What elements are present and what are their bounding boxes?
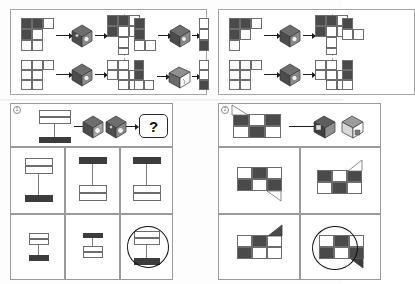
net-cell <box>252 247 267 259</box>
net-bar <box>83 252 103 258</box>
option-shape-1e <box>83 233 103 260</box>
net-cell <box>229 29 240 40</box>
net-cell <box>317 182 332 194</box>
net-cell <box>240 18 251 29</box>
net-bar <box>39 117 71 124</box>
net-cell <box>229 70 240 80</box>
option-cell-1d[interactable] <box>10 214 65 280</box>
option-shape-1d <box>29 233 49 261</box>
net-cell <box>267 247 282 259</box>
net-before-6 <box>229 60 262 90</box>
net-cell <box>118 80 129 90</box>
panel-label-2: 2 <box>221 106 229 114</box>
net-before-1 <box>21 18 54 51</box>
net-cell <box>347 182 362 194</box>
net-cell <box>326 60 337 70</box>
net-cell <box>240 29 251 40</box>
net-cell <box>342 18 353 29</box>
net-cell <box>21 70 32 80</box>
net-cell <box>107 26 118 37</box>
net-cell <box>134 40 145 51</box>
net-cell <box>107 60 118 70</box>
net-cell <box>353 29 364 40</box>
option-shape-2b <box>317 170 362 194</box>
net-cell <box>265 114 281 126</box>
net-flap-triangle <box>266 190 282 202</box>
net-cell <box>43 60 54 70</box>
net-cell <box>229 40 240 51</box>
option-cell-1b[interactable] <box>65 147 120 214</box>
net-stem <box>38 245 39 255</box>
net-cell <box>317 170 332 182</box>
net-cell <box>118 15 129 26</box>
net-cell <box>32 70 43 80</box>
net-flap-triangle <box>231 104 249 116</box>
prompt-net-1 <box>39 110 71 143</box>
net-cell <box>32 40 43 51</box>
net-stem <box>38 174 39 195</box>
net-bar <box>25 166 53 174</box>
cube-3d <box>277 23 303 49</box>
transform-arrow <box>303 35 313 36</box>
net-cell <box>21 29 32 40</box>
option-cell-1c[interactable] <box>120 147 173 214</box>
net-stem <box>146 164 147 185</box>
option-cell-1a[interactable] <box>10 147 65 214</box>
net-bar <box>25 158 53 166</box>
net-cell <box>32 29 43 40</box>
answer-placeholder-box[interactable]: ? <box>139 114 168 138</box>
net-cell <box>251 60 262 70</box>
option-cell-1e[interactable] <box>65 214 120 280</box>
transform-arrow <box>95 35 105 36</box>
net-cell <box>240 70 251 80</box>
transform-arrow <box>56 74 70 75</box>
net-cell <box>134 60 144 70</box>
net-cell <box>118 60 129 70</box>
cube-3d-outline <box>339 114 366 140</box>
net-cell <box>315 26 326 37</box>
net-cell <box>21 40 32 51</box>
option-shape-1c <box>133 157 161 202</box>
option-cell-2d[interactable] <box>300 214 381 280</box>
net-flap-triangle <box>347 159 363 172</box>
transform-arrow <box>264 35 278 36</box>
net-bar-filled <box>83 233 103 238</box>
selection-ellipse <box>126 225 171 270</box>
option-shape-1a <box>25 158 53 202</box>
panel-bottom-right-prompt: 2 <box>218 103 381 147</box>
net-before-4 <box>134 60 156 91</box>
net-before-5 <box>229 18 262 51</box>
net-cell <box>32 18 43 29</box>
net-cell <box>144 80 154 90</box>
option-shape-2a <box>237 167 282 191</box>
net-cell <box>240 80 251 90</box>
net-bar-filled <box>25 195 53 202</box>
cube-3d <box>277 62 303 88</box>
transform-arrow <box>56 35 70 36</box>
option-cell-2b[interactable] <box>300 147 381 214</box>
net-cell <box>342 80 353 90</box>
cube-3d-outline <box>166 64 193 90</box>
net-bar-filled <box>133 157 161 164</box>
net-cell <box>199 29 209 40</box>
net-stem <box>92 238 93 246</box>
option-shape-2c <box>237 235 282 259</box>
net-bar <box>79 193 107 201</box>
panel-label-1: 1 <box>13 106 21 114</box>
net-before-3 <box>134 18 156 51</box>
net-bar-filled <box>29 255 49 261</box>
option-shape-1b <box>79 157 107 202</box>
net-cell <box>326 37 337 48</box>
net-cell <box>118 26 129 37</box>
net-cell <box>251 18 262 29</box>
net-bar <box>79 185 107 193</box>
option-cell-1f[interactable] <box>120 214 173 280</box>
net-cell <box>249 114 265 126</box>
option-cell-2c[interactable] <box>218 214 300 280</box>
net-cell <box>107 70 118 80</box>
net-cell <box>32 60 43 70</box>
net-cell <box>118 70 129 80</box>
option-cell-2a[interactable] <box>218 147 300 214</box>
net-cell <box>252 179 267 191</box>
panel-bottom-left-prompt: 1 ? <box>10 103 173 147</box>
